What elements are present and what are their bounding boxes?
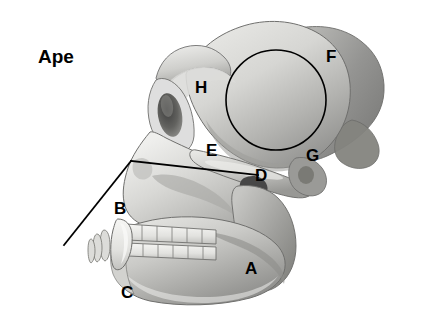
label-C: C xyxy=(121,284,133,301)
incisor-group xyxy=(88,230,110,263)
label-F: F xyxy=(326,48,336,65)
label-D: D xyxy=(255,167,267,184)
label-H: H xyxy=(195,79,207,96)
figure-title: Ape xyxy=(38,47,74,66)
figure-canvas: Ape A B C D E F G H xyxy=(0,0,440,324)
label-G: G xyxy=(306,147,319,164)
external-auditory-meatus xyxy=(298,166,314,184)
incisor-3 xyxy=(88,239,95,263)
label-E: E xyxy=(206,142,217,159)
label-A: A xyxy=(245,260,257,277)
label-B: B xyxy=(114,200,126,217)
